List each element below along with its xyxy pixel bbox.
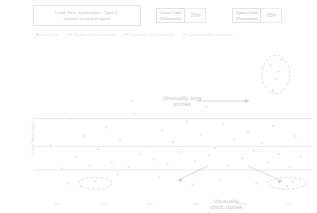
- data-point[interactable]: [61, 167, 63, 169]
- data-point[interactable]: [147, 145, 149, 147]
- x-axis-tick-labels: JanFebMarAprMayJun: [54, 201, 292, 206]
- data-point[interactable]: [252, 150, 254, 152]
- data-point[interactable]: [50, 144, 52, 146]
- legend-line-icon: [182, 34, 187, 35]
- annotation-unusually-long-stories: Unusually long stories: [163, 95, 201, 108]
- annotation-arrows-group: [178, 99, 282, 183]
- data-point[interactable]: [219, 179, 221, 181]
- arrow-short-stories-left: [178, 166, 208, 180]
- upper-limit-control[interactable]: Upper Limit (Percentile) 85%: [232, 8, 282, 23]
- lower-limit-value[interactable]: 20%: [185, 8, 206, 23]
- annotation-unusually-short-stories: Unusually short stories: [210, 198, 242, 211]
- data-point[interactable]: [66, 182, 68, 184]
- upper-limit-label-line-2: (Percentile): [236, 16, 257, 21]
- data-point[interactable]: [272, 89, 274, 91]
- arrow-short-stories-right: [248, 166, 282, 181]
- annotation-short-line-2: short stories: [210, 204, 242, 210]
- x-axis-tick-label: Feb: [100, 201, 108, 206]
- data-point[interactable]: [286, 185, 288, 187]
- data-point[interactable]: [247, 131, 249, 133]
- data-point[interactable]: [161, 129, 163, 131]
- lower-limit-control[interactable]: Lower Limit (Percentile) 20%: [156, 8, 206, 23]
- legend-item-1[interactable]: Median (50th percentile): [67, 32, 116, 37]
- data-point[interactable]: [241, 157, 243, 159]
- data-point[interactable]: [172, 141, 174, 143]
- data-point[interactable]: [272, 125, 274, 127]
- data-point[interactable]: [227, 164, 229, 166]
- legend-item-label: Median (50th percentile): [74, 32, 116, 37]
- data-point[interactable]: [261, 142, 263, 144]
- data-point[interactable]: [105, 126, 107, 128]
- chart-title-box: Lead Time Scatterplot - Type 1: release …: [33, 5, 141, 26]
- reference-lines-group: [34, 119, 312, 170]
- data-point[interactable]: [266, 162, 268, 164]
- data-point[interactable]: [191, 184, 193, 186]
- legend-item-2[interactable]: Lead time 20th percentile: [124, 32, 175, 37]
- legend-item-0[interactable]: Lead Time: [36, 32, 59, 37]
- data-point[interactable]: [130, 100, 132, 102]
- data-point[interactable]: [275, 78, 277, 80]
- data-point[interactable]: [116, 173, 118, 175]
- x-axis-tick-label: Jun: [286, 201, 292, 206]
- data-point[interactable]: [152, 159, 154, 161]
- data-point[interactable]: [127, 166, 129, 168]
- chart-header: Lead Time Scatterplot - Type 1: release …: [0, 0, 317, 28]
- chart-legend: Lead TimeMedian (50th percentile)Lead ti…: [36, 30, 286, 39]
- data-point[interactable]: [133, 113, 135, 115]
- arrowhead-long-stories: [245, 99, 249, 102]
- data-point[interactable]: [88, 164, 90, 166]
- highlight-ellipses-group: [78, 55, 306, 189]
- data-point[interactable]: [166, 163, 168, 165]
- y-axis-label: Lead Time (days): [30, 108, 35, 168]
- data-point[interactable]: [119, 139, 121, 141]
- legend-item-label: Lead time 20th percentile: [131, 32, 175, 37]
- x-axis-tick-label: Jan: [54, 201, 60, 206]
- scatterplot-svg: JanFebMarAprMayJun: [0, 40, 317, 213]
- x-axis-tick-label: Mar: [146, 201, 154, 206]
- upper-limit-label: Upper Limit (Percentile): [232, 8, 261, 23]
- x-axis-tick-label: Apr: [193, 201, 200, 206]
- data-point[interactable]: [180, 151, 182, 153]
- data-point[interactable]: [283, 145, 285, 147]
- data-point[interactable]: [200, 134, 202, 136]
- data-point[interactable]: [205, 106, 207, 108]
- legend-item-label: Lead Time: [41, 32, 59, 37]
- data-point[interactable]: [277, 153, 279, 155]
- chart-plot-area: JanFebMarAprMayJun Lead Time (days) Comp…: [0, 40, 317, 213]
- data-point[interactable]: [294, 135, 296, 137]
- data-points-group: [50, 59, 303, 188]
- data-point[interactable]: [94, 181, 96, 183]
- lower-limit-label-line-2: (Percentile): [160, 16, 181, 21]
- data-point[interactable]: [97, 148, 99, 150]
- data-point[interactable]: [83, 135, 85, 137]
- data-point[interactable]: [300, 156, 302, 158]
- data-point[interactable]: [186, 120, 188, 122]
- legend-line-icon: [67, 34, 72, 35]
- data-point[interactable]: [222, 123, 224, 125]
- data-point[interactable]: [69, 117, 71, 119]
- upper-limit-value[interactable]: 85%: [261, 8, 282, 23]
- data-point[interactable]: [75, 156, 77, 158]
- data-point[interactable]: [214, 147, 216, 149]
- data-point[interactable]: [111, 162, 113, 164]
- legend-dot-icon: [36, 33, 39, 36]
- data-point[interactable]: [277, 70, 279, 72]
- data-point[interactable]: [280, 59, 282, 61]
- legend-item-label: Lead time 85th percentile: [189, 32, 233, 37]
- highlight-ellipse-unusually-long-stories: [262, 55, 290, 93]
- annotation-long-line-2: stories: [163, 101, 201, 107]
- highlight-ellipse-unusually-short-stories-left: [78, 177, 111, 189]
- data-point[interactable]: [289, 166, 291, 168]
- legend-line-icon: [124, 34, 129, 35]
- data-point[interactable]: [269, 64, 271, 66]
- data-point[interactable]: [291, 181, 293, 183]
- legend-item-3[interactable]: Lead time 85th percentile: [182, 32, 233, 37]
- data-point[interactable]: [158, 176, 160, 178]
- data-point[interactable]: [233, 138, 235, 140]
- data-point[interactable]: [208, 154, 210, 156]
- highlight-ellipse-unusually-short-stories-right: [268, 177, 307, 189]
- data-point[interactable]: [138, 153, 140, 155]
- lower-limit-label: Lower Limit (Percentile): [156, 8, 185, 23]
- data-point[interactable]: [194, 160, 196, 162]
- data-point[interactable]: [255, 182, 257, 184]
